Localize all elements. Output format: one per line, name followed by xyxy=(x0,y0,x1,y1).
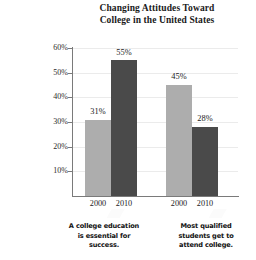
y-tick-label-60: 60% xyxy=(42,44,68,52)
x-tick-label-group2-2010: 2010 xyxy=(189,200,221,208)
callout-right-line-2: students get to xyxy=(160,232,252,242)
y-tick-mark-30 xyxy=(68,122,73,123)
chart-title: Changing Attitudes Toward College in the… xyxy=(62,3,252,26)
bar-group1-2010 xyxy=(111,60,137,196)
gridline-60 xyxy=(73,48,238,49)
gridline-40 xyxy=(73,97,238,98)
callout-left-line-3: success. xyxy=(58,241,150,251)
y-tick-mark-50 xyxy=(68,73,73,74)
y-tick-label-50: 50% xyxy=(42,69,68,77)
callout-right: Most qualified students get to attend co… xyxy=(160,218,252,260)
bar-group2-2000 xyxy=(166,85,192,196)
y-tick-mark-20 xyxy=(68,147,73,148)
bar-value-label-group2-2010: 28% xyxy=(189,115,221,123)
y-tick-label-20: 20% xyxy=(42,143,68,151)
callout-left-line-1: A college education xyxy=(58,222,150,232)
y-tick-label-30: 30% xyxy=(42,118,68,126)
y-tick-mark-10 xyxy=(68,171,73,172)
callout-left-line-2: is essential for xyxy=(58,232,150,242)
bar-group2-2010 xyxy=(192,127,218,196)
callout-left: A college education is essential for suc… xyxy=(58,218,150,260)
chart-title-line-2: College in the United States xyxy=(62,15,252,27)
bar-value-label-group2-2000: 45% xyxy=(163,73,195,81)
callout-right-line-3: attend college. xyxy=(160,241,252,251)
y-tick-mark-60 xyxy=(68,48,73,49)
x-axis-line xyxy=(72,196,239,197)
gridline-50 xyxy=(73,73,238,74)
x-tick-label-group1-2010: 2010 xyxy=(108,200,140,208)
bar-value-label-group1-2010: 55% xyxy=(108,49,140,57)
y-tick-mark-40 xyxy=(68,97,73,98)
y-tick-label-10: 10% xyxy=(42,167,68,175)
callout-right-line-1: Most qualified xyxy=(160,222,252,232)
bar-value-label-group1-2000: 31% xyxy=(82,108,114,116)
y-tick-label-40: 40% xyxy=(42,93,68,101)
bar-group1-2000 xyxy=(85,120,111,196)
chart-title-line-1: Changing Attitudes Toward xyxy=(62,3,252,15)
